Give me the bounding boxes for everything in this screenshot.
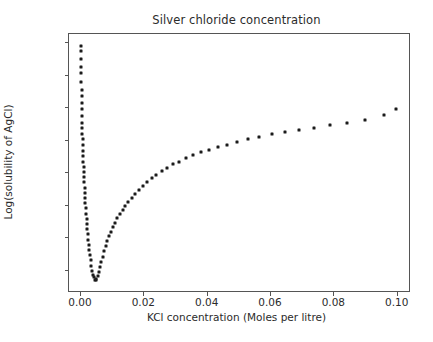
data-point xyxy=(312,126,315,129)
data-point xyxy=(107,234,110,237)
data-point xyxy=(82,165,85,168)
x-tick-label: 0.00 xyxy=(68,296,91,308)
data-point xyxy=(84,202,87,205)
data-point xyxy=(283,130,286,133)
data-point xyxy=(102,250,105,253)
data-point xyxy=(96,275,99,278)
data-point xyxy=(137,189,140,192)
data-point xyxy=(297,129,300,132)
data-point xyxy=(87,238,90,241)
data-point xyxy=(178,160,181,163)
data-point xyxy=(81,138,84,141)
y-axis-label: Log(solubility of AgCl) xyxy=(2,104,14,219)
data-point xyxy=(81,150,84,153)
x-tick-label: 0.08 xyxy=(322,296,345,308)
data-point xyxy=(83,186,86,189)
data-point xyxy=(226,143,229,146)
data-point xyxy=(84,196,87,199)
data-point xyxy=(270,133,273,136)
data-point xyxy=(85,217,88,220)
x-tick-mark xyxy=(207,292,208,296)
data-point xyxy=(98,265,101,268)
x-tick-label: 0.02 xyxy=(132,296,155,308)
data-point xyxy=(127,200,130,203)
data-point xyxy=(81,121,84,124)
data-point xyxy=(81,143,84,146)
data-point xyxy=(345,121,348,124)
x-tick-mark xyxy=(143,292,144,296)
data-point xyxy=(82,170,85,173)
data-point xyxy=(118,212,121,215)
data-point xyxy=(208,148,211,151)
data-point xyxy=(109,230,112,233)
data-point xyxy=(80,44,83,47)
data-point xyxy=(81,126,84,129)
data-point xyxy=(104,245,107,248)
data-point xyxy=(82,160,85,163)
data-point xyxy=(150,177,153,180)
data-point xyxy=(160,169,163,172)
data-point xyxy=(101,255,104,258)
x-tick-label: 0.04 xyxy=(195,296,218,308)
data-point xyxy=(80,72,83,75)
x-tick-mark xyxy=(270,292,271,296)
data-point xyxy=(236,141,239,144)
data-point xyxy=(83,191,86,194)
data-point xyxy=(155,173,158,176)
data-point xyxy=(80,81,83,84)
chart-figure: Silver chloride concentration Log(solubi… xyxy=(0,0,433,342)
data-point xyxy=(85,212,88,215)
data-point xyxy=(87,243,90,246)
chart-title: Silver chloride concentration xyxy=(0,13,433,27)
data-point xyxy=(81,133,84,136)
data-point xyxy=(100,260,103,263)
data-point xyxy=(246,138,249,141)
x-axis-label: KCl concentration (Moles per litre) xyxy=(0,311,433,323)
data-point xyxy=(88,249,91,252)
data-point xyxy=(395,108,398,111)
data-point xyxy=(97,271,100,274)
x-tick-mark xyxy=(397,292,398,296)
data-point xyxy=(85,223,88,226)
data-point xyxy=(328,124,331,127)
data-point xyxy=(82,176,85,179)
x-tick-label: 0.06 xyxy=(258,296,281,308)
data-point xyxy=(130,196,133,199)
data-point xyxy=(121,208,124,211)
data-point xyxy=(80,65,83,68)
data-point xyxy=(114,221,117,224)
data-point xyxy=(90,264,93,267)
data-point xyxy=(192,154,195,157)
data-point xyxy=(91,269,94,272)
data-point xyxy=(80,57,83,60)
data-point xyxy=(124,204,127,207)
x-tick-mark xyxy=(80,292,81,296)
data-point xyxy=(199,151,202,154)
data-point xyxy=(84,207,87,210)
data-point xyxy=(80,88,83,91)
data-point xyxy=(106,239,109,242)
data-point xyxy=(171,163,174,166)
data-point xyxy=(363,118,366,121)
data-point xyxy=(89,259,92,262)
data-point xyxy=(80,49,83,52)
data-point xyxy=(146,181,149,184)
data-point xyxy=(83,181,86,184)
data-point xyxy=(184,156,187,159)
data-point xyxy=(166,167,169,170)
data-point xyxy=(111,225,114,228)
data-point xyxy=(116,216,119,219)
x-tick-label: 0.10 xyxy=(385,296,408,308)
data-point xyxy=(80,95,83,98)
data-point xyxy=(258,135,261,138)
data-point xyxy=(383,113,386,116)
data-point xyxy=(141,185,144,188)
data-point xyxy=(89,254,92,257)
x-tick-mark xyxy=(333,292,334,296)
data-point xyxy=(86,228,89,231)
data-point xyxy=(134,193,137,196)
data-point xyxy=(95,277,98,280)
plot-area xyxy=(68,33,410,292)
data-point xyxy=(82,155,85,158)
data-point xyxy=(80,108,83,111)
